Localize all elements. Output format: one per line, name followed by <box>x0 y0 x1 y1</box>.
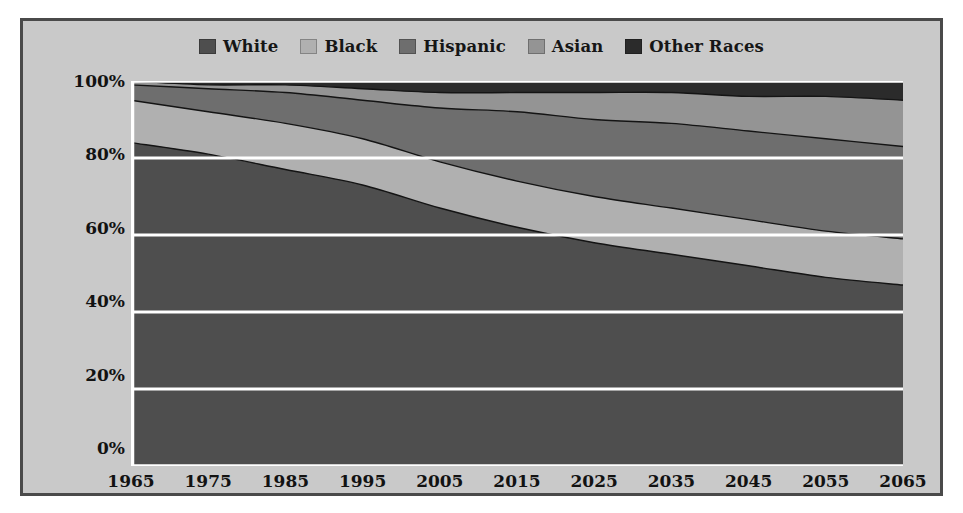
stacked-area-svg <box>131 81 903 466</box>
legend-label: Other Races <box>649 37 764 56</box>
chart-page: WhiteBlackHispanicAsianOther Races 0%20%… <box>0 0 963 513</box>
legend-item-asian[interactable]: Asian <box>528 37 604 56</box>
x-axis-tick-label: 1965 <box>107 471 154 491</box>
legend-item-hispanic[interactable]: Hispanic <box>399 37 506 56</box>
x-axis-tick-label: 1985 <box>262 471 309 491</box>
x-axis-tick-label: 2055 <box>802 471 849 491</box>
x-axis-tick-label: 2035 <box>648 471 695 491</box>
legend-item-white[interactable]: White <box>199 37 278 56</box>
y-axis-tick-label: 40% <box>85 291 125 311</box>
legend-swatch-icon <box>300 39 317 54</box>
x-axis-tick-label: 1995 <box>339 471 386 491</box>
legend-item-black[interactable]: Black <box>300 37 377 56</box>
chart-legend: WhiteBlackHispanicAsianOther Races <box>23 37 940 56</box>
y-axis-tick-label: 60% <box>85 218 125 238</box>
x-axis-tick-label: 2005 <box>416 471 463 491</box>
y-axis-tick-label: 80% <box>85 144 125 164</box>
x-axis-tick-label: 2015 <box>493 471 540 491</box>
legend-swatch-icon <box>528 39 545 54</box>
x-axis-labels: 1965197519851995200520152025203520452055… <box>131 471 903 501</box>
y-axis-tick-label: 0% <box>97 438 125 458</box>
legend-item-other-races[interactable]: Other Races <box>625 37 764 56</box>
legend-label: Asian <box>552 37 604 56</box>
chart-frame: WhiteBlackHispanicAsianOther Races 0%20%… <box>20 18 943 496</box>
x-axis-tick-label: 2065 <box>879 471 926 491</box>
y-axis-tick-label: 20% <box>85 365 125 385</box>
legend-swatch-icon <box>399 39 416 54</box>
legend-swatch-icon <box>625 39 642 54</box>
legend-label: Black <box>324 37 377 56</box>
y-axis-labels: 0%20%40%60%80%100% <box>47 81 125 448</box>
x-axis-tick-label: 2045 <box>725 471 772 491</box>
legend-label: White <box>223 37 278 56</box>
y-axis-tick-label: 100% <box>73 71 125 91</box>
legend-label: Hispanic <box>423 37 506 56</box>
x-axis-tick-label: 1975 <box>185 471 232 491</box>
legend-swatch-icon <box>199 39 216 54</box>
plot-area <box>131 81 903 466</box>
x-axis-tick-label: 2025 <box>571 471 618 491</box>
